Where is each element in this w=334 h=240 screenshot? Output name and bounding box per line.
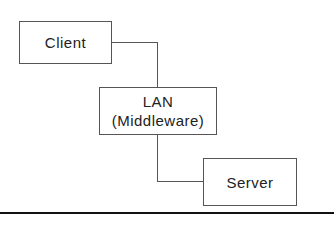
server-node: Server (203, 158, 297, 206)
edge-lan-server-horizontal (157, 181, 203, 182)
lan-middleware-node: LAN (Middleware) (99, 87, 217, 135)
edge-lan-server-vertical (157, 134, 158, 182)
middleware-label: (Middleware) (112, 111, 205, 130)
client-label: Client (45, 33, 86, 52)
lan-label: LAN (143, 92, 174, 111)
edge-client-lan-vertical (157, 42, 158, 87)
client-node: Client (19, 21, 112, 64)
server-label: Server (226, 173, 273, 192)
edge-client-lan-horizontal (111, 42, 158, 43)
bottom-rule (0, 212, 334, 214)
